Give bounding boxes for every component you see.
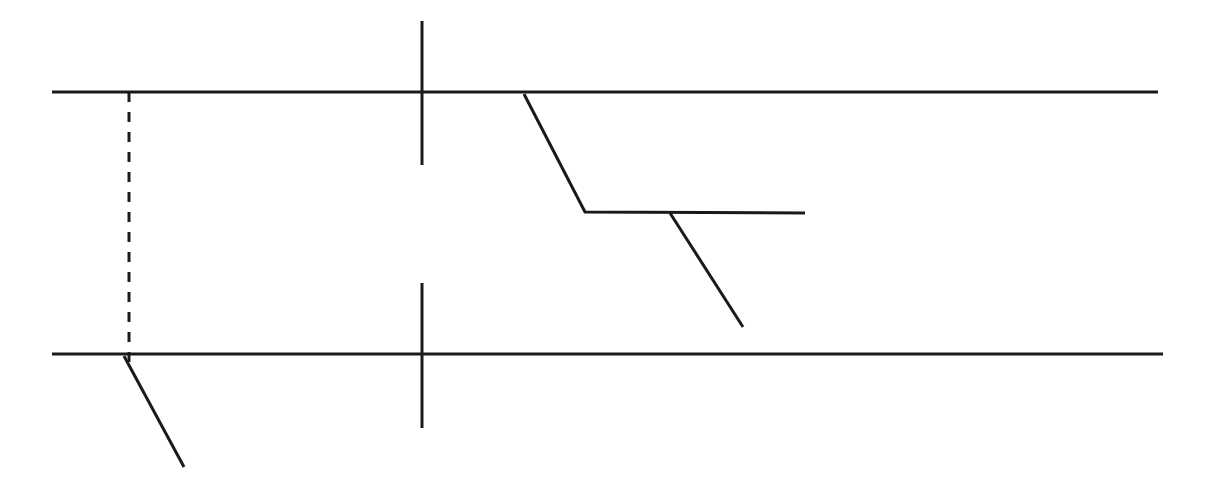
diagram-line-layer	[52, 21, 1163, 467]
branch-diagonal-left	[124, 356, 184, 467]
diagram-canvas	[0, 0, 1208, 497]
stepped-polyline	[524, 94, 805, 213]
branch-diagonal-right	[670, 213, 743, 327]
diagram-svg	[0, 0, 1208, 497]
